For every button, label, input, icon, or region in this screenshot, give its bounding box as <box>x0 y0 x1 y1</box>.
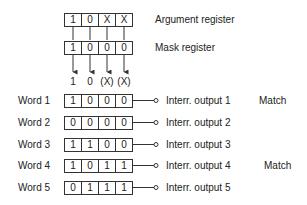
match-status: Match <box>259 95 286 107</box>
argument-bit: 0 <box>82 14 99 26</box>
word-register: 0 0 0 0 <box>64 116 133 130</box>
word-bit: 0 <box>65 117 82 129</box>
argument-bit: X <box>116 14 132 26</box>
mask-output-arrows <box>73 54 124 72</box>
argument-bit: X <box>99 14 116 26</box>
word-bit: 0 <box>99 95 116 107</box>
word-bit: 0 <box>82 117 99 129</box>
word-bit: 1 <box>116 160 132 172</box>
mask-register: 1 0 0 0 <box>64 41 133 55</box>
word-label: Word 2 <box>18 117 50 129</box>
word-bit: 1 <box>116 182 132 194</box>
word-bit: 1 <box>99 182 116 194</box>
word-bit: 1 <box>65 139 82 151</box>
masked-bit: 1 <box>70 76 76 88</box>
word-bit: 0 <box>116 139 132 151</box>
interrupt-output-label: Interr. output 2 <box>166 117 231 129</box>
argument-register-label: Argument register <box>155 14 234 26</box>
interrupt-output-label: Interr. output 5 <box>166 182 231 194</box>
word-bit: 1 <box>65 95 82 107</box>
word-register: 1 0 0 0 <box>64 94 133 108</box>
word-bit: 0 <box>99 117 116 129</box>
masked-bit: (X) <box>117 76 130 88</box>
mask-bit: 0 <box>82 42 99 54</box>
word-register: 0 1 1 1 <box>64 181 133 195</box>
mask-bit: 1 <box>65 42 82 54</box>
word-output-terminals <box>133 99 158 190</box>
word-label: Word 1 <box>18 95 50 107</box>
interrupt-output-label: Interr. output 4 <box>166 160 231 172</box>
word-bit: 0 <box>116 95 132 107</box>
interrupt-output-label: Interr. output 3 <box>166 139 231 151</box>
masked-bit: (X) <box>100 76 113 88</box>
word-label: Word 3 <box>18 139 50 151</box>
word-label: Word 5 <box>18 182 50 194</box>
match-status: Match <box>264 160 291 172</box>
word-bit: 0 <box>82 95 99 107</box>
word-bit: 0 <box>82 160 99 172</box>
word-register: 1 1 0 0 <box>64 138 133 152</box>
argument-to-mask-lines <box>73 26 124 40</box>
word-register: 1 0 1 1 <box>64 159 133 173</box>
mask-register-label: Mask register <box>155 42 215 54</box>
masked-argument: 1 0 (X) (X) <box>0 76 307 88</box>
word-bit: 1 <box>99 160 116 172</box>
mask-bit: 0 <box>99 42 116 54</box>
argument-bit: 1 <box>65 14 82 26</box>
argument-register: 1 0 X X <box>64 13 133 27</box>
masked-bit: 0 <box>87 76 93 88</box>
word-bit: 0 <box>116 117 132 129</box>
word-label: Word 4 <box>18 160 50 172</box>
mask-bit: 0 <box>116 42 132 54</box>
word-bit: 0 <box>99 139 116 151</box>
word-bit: 0 <box>65 182 82 194</box>
word-bit: 1 <box>82 182 99 194</box>
word-bit: 1 <box>65 160 82 172</box>
interrupt-output-label: Interr. output 1 <box>166 95 231 107</box>
word-bit: 1 <box>82 139 99 151</box>
